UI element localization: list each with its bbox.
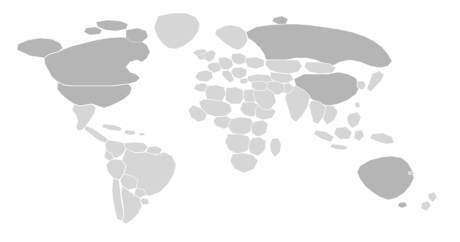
world-map-svg — [0, 0, 460, 242]
world-map-figure — [0, 0, 460, 242]
country-taiwan[interactable] — [355, 102, 360, 108]
country-ukraine[interactable] — [245, 57, 264, 69]
country-libya[interactable] — [225, 87, 244, 104]
